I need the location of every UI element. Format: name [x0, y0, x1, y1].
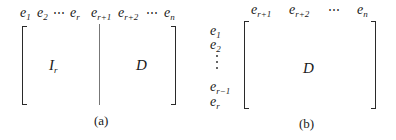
col-label-er: er: [70, 6, 80, 20]
caption-b: (b): [299, 117, 314, 130]
d-block-label: D: [303, 61, 314, 75]
col-label-e1: e1: [20, 6, 31, 20]
row-label-vdots: [216, 55, 219, 73]
d-block-label: D: [136, 58, 147, 72]
left-bracket: [244, 21, 249, 109]
col-label-en: en: [357, 3, 368, 17]
col-label-er1: er+1: [91, 6, 111, 20]
col-label-e2: e2: [37, 6, 48, 20]
col-label-er1: er+1: [251, 3, 271, 17]
left-bracket: [22, 26, 27, 105]
row-label-er: er: [210, 95, 220, 109]
col-label-en: en: [164, 6, 175, 20]
col-label-ellipsis: ⋯: [53, 6, 66, 21]
right-bracket: [171, 26, 176, 105]
row-label-e2: e2: [210, 38, 221, 52]
col-label-er2: er+2: [118, 6, 138, 20]
row-label-e1: e1: [210, 24, 221, 38]
col-label-er2: er+2: [289, 3, 309, 17]
col-label-ellipsis-2: ⋯: [146, 6, 159, 21]
identity-block-label: Ir: [49, 58, 58, 72]
caption-a: (a): [94, 114, 108, 127]
col-label-ellipsis: ⋯: [328, 3, 341, 18]
block-divider: [99, 24, 100, 105]
right-bracket: [371, 21, 376, 109]
row-label-er-minus-1: er−1: [210, 80, 230, 94]
